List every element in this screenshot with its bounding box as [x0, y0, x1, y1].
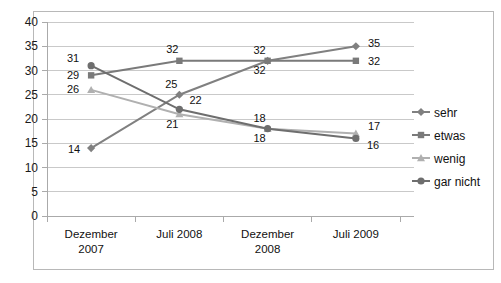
- legend-item-sehr[interactable]: sehr: [412, 106, 457, 120]
- legend-item-label: sehr: [434, 106, 457, 120]
- data-point-label: 32: [166, 43, 178, 55]
- y-axis-tick-label: 10: [25, 161, 39, 175]
- data-point-label: 18: [253, 132, 265, 144]
- series-gar-nicht: 31221816: [67, 52, 379, 152]
- data-point-marker: [88, 72, 94, 78]
- data-point-marker: [352, 42, 360, 50]
- x-axis-tick-label: Juli 2008: [156, 228, 202, 240]
- legend-item-label: gar nicht: [434, 175, 481, 189]
- legend-item-gar-nicht[interactable]: gar nicht: [412, 175, 481, 189]
- y-axis-tick-label: 5: [31, 185, 38, 199]
- legend-item-label: etwas: [434, 129, 465, 143]
- series-line: [91, 66, 356, 139]
- x-axis-tick-label: 2008: [255, 243, 281, 255]
- data-point-marker: [176, 106, 183, 113]
- x-axis-tick-label: Dezember: [241, 228, 294, 240]
- data-point-marker: [176, 58, 182, 64]
- data-point-marker: [352, 135, 359, 142]
- legend-item-wenig[interactable]: wenig: [412, 152, 465, 166]
- y-axis-tick-label: 0: [31, 209, 38, 223]
- y-axis-tick-label: 25: [25, 88, 39, 102]
- data-point-label: 14: [68, 143, 80, 155]
- data-point-marker: [88, 62, 95, 69]
- data-point-label: 22: [189, 94, 201, 106]
- chart-legend: sehretwasweniggar nicht: [412, 106, 481, 189]
- data-point-label: 35: [368, 37, 380, 49]
- data-point-marker: [418, 132, 424, 138]
- data-point-marker: [417, 108, 425, 116]
- series-line: [91, 90, 356, 134]
- data-point-label: 25: [165, 78, 177, 90]
- chart-figure: 0510152025303540Dezember2007Juli 2008Dez…: [0, 0, 501, 283]
- data-point-label: 32: [253, 64, 265, 76]
- y-axis-tick-label: 30: [25, 64, 39, 78]
- data-point-label: 31: [67, 52, 79, 64]
- data-point-label: 16: [367, 139, 379, 151]
- legend-item-label: wenig: [433, 152, 465, 166]
- y-axis-tick-label: 40: [25, 15, 39, 29]
- y-axis-tick-label: 20: [25, 112, 39, 126]
- data-point-marker: [353, 58, 359, 64]
- data-point-label: 17: [368, 120, 380, 132]
- series-etwas: 29323232: [67, 43, 380, 82]
- x-axis-categories: Dezember2007Juli 2008Dezember2008Juli 20…: [47, 216, 400, 255]
- data-point-marker: [87, 86, 95, 93]
- y-axis-tick-label: 15: [25, 136, 39, 150]
- x-axis-tick-label: Juli 2009: [333, 228, 379, 240]
- x-axis-tick-label: Dezember: [65, 228, 118, 240]
- line-chart: 0510152025303540Dezember2007Juli 2008Dez…: [0, 0, 501, 283]
- data-point-label: 18: [253, 112, 265, 124]
- data-point-label: 32: [368, 55, 380, 67]
- series-wenig: 26211817: [67, 83, 380, 137]
- data-point-label: 29: [67, 69, 79, 81]
- data-point-label: 21: [166, 118, 178, 130]
- x-axis-tick-label: 2007: [78, 243, 104, 255]
- data-point-label: 26: [67, 83, 79, 95]
- data-point-marker: [417, 177, 424, 184]
- data-point-label: 32: [253, 44, 265, 56]
- legend-item-etwas[interactable]: etwas: [412, 129, 465, 143]
- y-axis-tick-label: 35: [25, 39, 39, 53]
- series-line: [91, 61, 356, 76]
